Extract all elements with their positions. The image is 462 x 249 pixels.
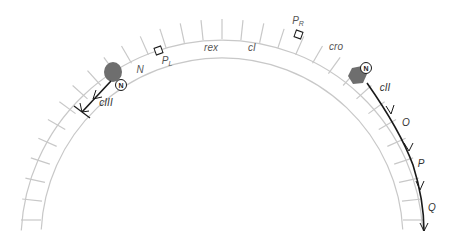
lambda-map-diagram: N N N PL rex cI PR cro cII cIII O P Q — [0, 0, 462, 249]
ring-map-graphic: N N — [0, 0, 462, 249]
cii-opq-transcript-arrow — [367, 83, 428, 231]
n-protein-blob-left — [104, 62, 122, 82]
gene-label-ci: cI — [248, 43, 256, 53]
n-marker-right-text: N — [363, 65, 368, 72]
promoter-pl-main: P — [162, 55, 169, 66]
promoter-pr-main: P — [292, 15, 299, 26]
gene-label-p: P — [418, 159, 425, 169]
gene-label-cro: cro — [329, 42, 343, 52]
gene-label-q: Q — [428, 203, 436, 213]
n-marker-left-text: N — [118, 82, 123, 89]
gene-label-n: N — [136, 65, 143, 75]
promoter-pl-sub: L — [168, 60, 172, 67]
promoter-label-pl: PL — [162, 56, 173, 69]
gene-label-o: O — [402, 118, 410, 128]
gene-label-ciii: cIII — [99, 98, 112, 108]
gene-label-rex: rex — [204, 43, 218, 53]
gene-label-cii: cII — [380, 83, 391, 93]
dna-ring — [21, 19, 423, 231]
promoter-label-pr: PR — [292, 16, 304, 29]
promoter-pr-box — [294, 30, 303, 39]
promoter-pr-sub: R — [299, 20, 304, 27]
